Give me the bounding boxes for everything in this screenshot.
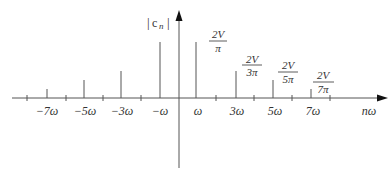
svg-text:π: π [215, 42, 221, 54]
svg-text:|: | [167, 15, 170, 30]
svg-text:−7ω: −7ω [36, 104, 59, 118]
svg-text:3π: 3π [245, 66, 258, 78]
svg-text:2V: 2V [317, 69, 331, 81]
svg-text:7π: 7π [317, 83, 329, 95]
svg-text:−3ω: −3ω [111, 104, 134, 118]
svg-text:2V: 2V [212, 28, 226, 40]
svg-text:5ω: 5ω [268, 104, 282, 118]
svg-text:−ω: −ω [152, 104, 169, 118]
svg-text:2V: 2V [282, 59, 296, 71]
y-axis-label: | c n | [147, 15, 170, 31]
svg-text:|: | [147, 15, 150, 30]
x-axis-label: nω [362, 104, 376, 118]
svg-text:5π: 5π [282, 73, 294, 85]
svg-text:3ω: 3ω [229, 104, 244, 118]
svg-text:2V: 2V [246, 53, 260, 65]
y-axis-arrow-icon [176, 10, 183, 21]
svg-text:7ω: 7ω [306, 104, 320, 118]
spectrum-diagram: | c n | −7ω −5ω −3ω −ω ω 3ω 5ω 7ω nω 2V … [0, 0, 392, 176]
amplitude-label-5: 2V 5π [278, 59, 298, 85]
amplitude-label-3: 2V 3π [242, 53, 262, 78]
svg-text:−5ω: −5ω [74, 104, 97, 118]
svg-text:n: n [159, 21, 164, 31]
svg-text:ω: ω [194, 104, 202, 118]
x-tick-labels: −7ω −5ω −3ω −ω ω 3ω 5ω 7ω nω [36, 104, 377, 118]
amplitude-label-7: 2V 7π [313, 69, 334, 95]
amplitude-label-1: 2V π [209, 28, 227, 54]
svg-text:c: c [152, 16, 157, 30]
x-axis-arrow-icon [377, 95, 388, 102]
